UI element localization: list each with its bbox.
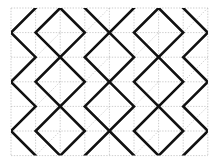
figure-root — [0, 0, 217, 164]
geometric-pattern-canvas — [0, 0, 217, 164]
